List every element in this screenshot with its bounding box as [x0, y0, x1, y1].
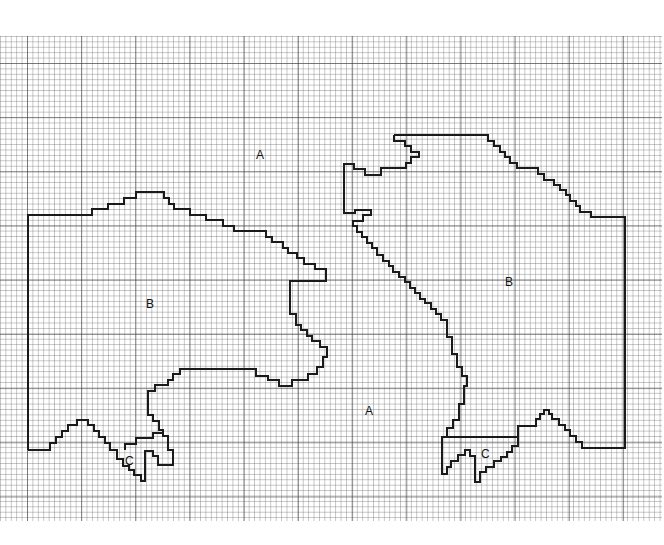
region-label-c-right: C [481, 448, 490, 460]
right-region-boundary [344, 135, 625, 482]
left-inner-c-boundary [125, 433, 163, 450]
region-label-b-left: B [146, 298, 154, 310]
left-region-boundary [28, 192, 327, 481]
region-label-a-middle: A [365, 405, 373, 417]
region-contours [0, 0, 664, 545]
region-label-c-left: C [125, 455, 134, 467]
region-label-b-right: B [505, 276, 513, 288]
region-label-a-top: A [256, 149, 264, 161]
